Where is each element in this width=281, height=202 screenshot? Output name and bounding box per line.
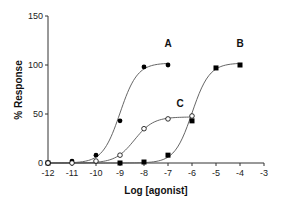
axes: 050100150-12-11-10-9-8-7-6-5-4-3 (28, 11, 268, 178)
series-label-c: C (176, 98, 183, 109)
x-tick-label: -7 (164, 168, 172, 178)
curve-a (48, 63, 168, 163)
x-tick-label: -11 (66, 168, 78, 178)
fitted-curves (48, 63, 240, 163)
curve-b (48, 63, 240, 163)
point-b (166, 153, 171, 158)
x-tick-label: -10 (89, 168, 102, 178)
x-tick-label: -4 (236, 168, 244, 178)
y-tick-label: 0 (38, 158, 43, 168)
series-label-b: B (236, 38, 243, 49)
point-c (166, 117, 171, 122)
point-b (214, 65, 219, 70)
series-labels: ABC (164, 38, 243, 109)
y-axis-title: % Response (13, 60, 24, 120)
y-tick-label: 150 (28, 11, 43, 21)
x-axis-title: Log [agonist] (124, 185, 187, 196)
x-tick-label: -8 (140, 168, 148, 178)
series-label-a: A (164, 38, 171, 49)
point-c (142, 126, 147, 131)
y-tick-label: 100 (28, 60, 43, 70)
point-b (142, 160, 147, 165)
x-tick-label: -5 (212, 168, 220, 178)
point-a (166, 63, 171, 68)
point-a (94, 153, 99, 158)
dose-response-chart: 050100150-12-11-10-9-8-7-6-5-4-3 ABC Log… (0, 0, 281, 202)
point-c (190, 114, 195, 119)
point-c (118, 153, 123, 158)
x-tick-label: -6 (188, 168, 196, 178)
data-points (46, 63, 243, 166)
point-a (142, 65, 147, 70)
point-a (118, 118, 123, 123)
point-c (46, 161, 51, 166)
x-tick-label: -3 (260, 168, 268, 178)
point-b (190, 118, 195, 123)
x-tick-label: -9 (116, 168, 124, 178)
point-c (70, 161, 75, 166)
x-tick-label: -12 (41, 168, 54, 178)
point-b (118, 161, 123, 166)
point-c (94, 159, 99, 164)
y-tick-label: 50 (33, 109, 43, 119)
point-b (238, 63, 243, 68)
